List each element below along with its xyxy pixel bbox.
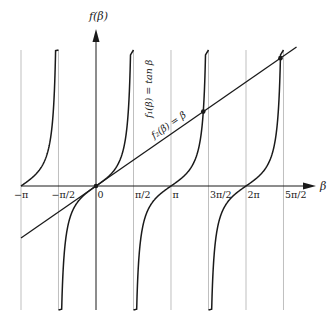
axes: [21, 29, 316, 310]
tick-label: −π/2: [51, 189, 74, 200]
tan-beta-vs-beta-diagram: −π−π/20π/2π3π/22π5π/2 f(β) β f₁(β) = tan…: [0, 0, 336, 336]
intersection-dot: [94, 184, 99, 189]
intersection-dot: [278, 56, 283, 61]
tick-label: −π: [14, 189, 28, 200]
tick-label: 0: [98, 189, 104, 200]
curve-label-f1: f₁(β) = tan β: [143, 59, 154, 119]
x-axis-label: β: [319, 180, 326, 193]
tick-label: 3π/2: [210, 189, 232, 200]
tick-label: 2π: [248, 189, 260, 200]
tick-label: π/2: [135, 189, 151, 200]
line-f2-beta: [21, 47, 297, 238]
y-axis-arrow-icon: [93, 29, 100, 42]
tan-branch: [21, 50, 59, 186]
plot-canvas: −π−π/20π/2π3π/22π5π/2 f(β) β f₁(β) = tan…: [0, 0, 336, 336]
y-axis-label: f(β): [88, 10, 108, 23]
tick-label: π: [172, 189, 178, 200]
intersection-dot: [201, 109, 206, 114]
tick-label: 5π/2: [285, 189, 307, 200]
